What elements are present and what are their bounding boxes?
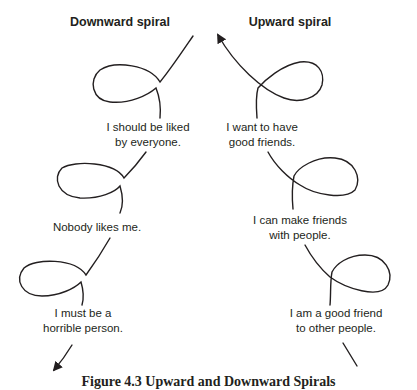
upward-step-1: I want to have good friends.: [226, 120, 298, 149]
downward-step-1-line1: I should be liked: [106, 120, 189, 135]
downward-loop-3: [20, 238, 110, 305]
downward-step-2-line1: Nobody likes me.: [53, 220, 141, 235]
downward-step-3-line1: I must be a: [43, 306, 123, 321]
downward-loop-2: [57, 152, 146, 213]
upward-step-3: I am a good friend to other people.: [290, 306, 383, 335]
upward-loop-1: [218, 35, 323, 118]
downward-step-2: Nobody likes me.: [53, 220, 141, 235]
upward-loop-3: [305, 245, 390, 305]
upward-step-2: I can make friends with people.: [253, 213, 347, 242]
upward-step-3-line2: to other people.: [290, 321, 383, 336]
upward-step-1-line1: I want to have: [226, 120, 298, 135]
upward-tail: [343, 343, 357, 366]
downward-step-3-line2: horrible person.: [43, 321, 123, 336]
figure-caption: Figure 4.3 Upward and Downward Spirals: [81, 374, 335, 390]
upward-step-2-line2: with people.: [253, 228, 347, 243]
downward-arrow: [54, 345, 72, 370]
downward-step-1-line2: by everyone.: [106, 135, 189, 150]
upward-spiral-heading: Upward spiral: [249, 15, 332, 29]
upward-step-1-line2: good friends.: [226, 135, 298, 150]
downward-step-3: I must be a horrible person.: [43, 306, 123, 335]
downward-spiral-heading: Downward spiral: [70, 15, 170, 29]
upward-step-3-line1: I am a good friend: [290, 306, 383, 321]
upward-step-2-line1: I can make friends: [253, 213, 347, 228]
downward-step-1: I should be liked by everyone.: [106, 120, 189, 149]
downward-loop-1: [93, 36, 193, 118]
upward-loop-2: [268, 152, 358, 209]
